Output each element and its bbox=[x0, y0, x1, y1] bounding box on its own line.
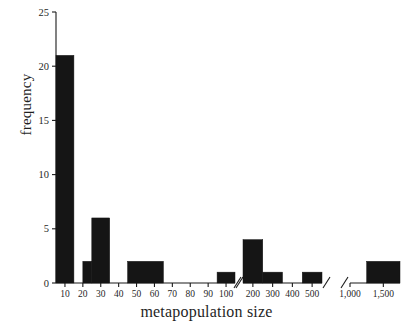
x-tick-label: 90 bbox=[203, 289, 213, 299]
x-tick-label: 20 bbox=[78, 289, 88, 299]
histogram-figure: frequency 0510152025 1020304050607080901… bbox=[0, 0, 413, 329]
y-tick-label: 10 bbox=[39, 169, 50, 180]
y-tick-label: 25 bbox=[39, 7, 50, 18]
axis-break-icon bbox=[341, 277, 348, 288]
histogram-bar bbox=[56, 55, 74, 283]
histogram-bar bbox=[367, 261, 400, 283]
x-tick-label: 1,000 bbox=[339, 289, 361, 299]
chart-canvas: 0510152025 10203040506070809010020030040… bbox=[0, 0, 413, 329]
x-tick-label: 500 bbox=[305, 289, 320, 299]
histogram-bar bbox=[263, 272, 283, 283]
histogram-bar bbox=[92, 218, 110, 283]
x-tick-label: 70 bbox=[168, 289, 178, 299]
axis-break-icon bbox=[323, 277, 330, 288]
x-tick-label: 30 bbox=[96, 289, 106, 299]
histogram-bar bbox=[243, 240, 263, 283]
x-tick-label: 400 bbox=[285, 289, 300, 299]
x-tick-label: 200 bbox=[246, 289, 261, 299]
x-tick-label: 1,500 bbox=[373, 289, 395, 299]
x-tick-label: 100 bbox=[219, 289, 234, 299]
x-tick-label: 50 bbox=[132, 289, 142, 299]
histogram-bar bbox=[302, 272, 322, 283]
histogram-bar bbox=[217, 272, 235, 283]
x-tick-label: 40 bbox=[114, 289, 124, 299]
y-tick-group: 0510152025 bbox=[39, 7, 57, 289]
histogram-bar bbox=[128, 261, 164, 283]
x-tick-label: 60 bbox=[150, 289, 160, 299]
y-tick-label: 15 bbox=[39, 115, 50, 126]
y-tick-label: 5 bbox=[44, 223, 49, 234]
y-tick-label: 20 bbox=[39, 61, 50, 72]
x-tick-group: 1020304050607080901002003004005001,0001,… bbox=[60, 283, 394, 299]
y-tick-label: 0 bbox=[44, 278, 49, 289]
x-tick-label: 80 bbox=[186, 289, 196, 299]
x-axis-label: metapopulation size bbox=[0, 303, 413, 321]
bars-group bbox=[56, 55, 400, 283]
x-tick-label: 10 bbox=[60, 289, 70, 299]
x-tick-label: 300 bbox=[266, 289, 281, 299]
histogram-bar bbox=[83, 261, 92, 283]
